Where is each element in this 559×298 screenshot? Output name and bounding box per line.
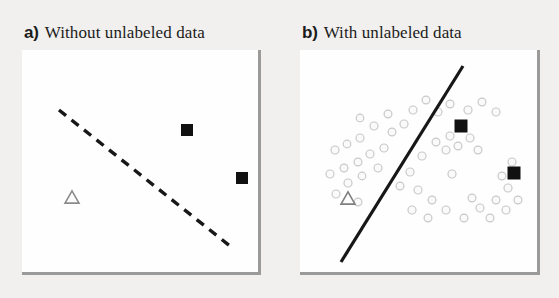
unlabeled-point-marker (414, 186, 422, 194)
labeled-square-marker (181, 124, 193, 136)
unlabeled-point-marker (358, 172, 366, 180)
unlabeled-point-marker (366, 150, 374, 158)
unlabeled-point-marker (384, 110, 392, 118)
unlabeled-point-marker (446, 100, 454, 108)
panel-b-letter: b) (302, 23, 318, 42)
unlabeled-point-marker (478, 98, 486, 106)
unlabeled-point-marker (408, 206, 416, 214)
unlabeled-point-marker (486, 214, 494, 222)
unlabeled-point-marker (466, 134, 474, 142)
figure-canvas: a)Without unlabeled data b)With unlabele… (0, 0, 559, 298)
unlabeled-point-marker (454, 142, 462, 150)
panel-b-plot-area (300, 50, 537, 272)
unlabeled-point-marker (514, 196, 522, 204)
labeled-square-marker (236, 172, 248, 184)
panel-b-label: b)With unlabeled data (302, 24, 462, 41)
unlabeled-point-marker (448, 170, 456, 178)
unlabeled-point-marker (343, 140, 351, 148)
panel-a-letter: a) (24, 23, 39, 42)
labeled-triangle-marker (341, 192, 355, 204)
unlabeled-point-marker (356, 134, 364, 142)
unlabeled-point-marker (370, 122, 378, 130)
unlabeled-point-marker (508, 158, 516, 166)
labeled-square-marker (455, 120, 468, 133)
unlabeled-point-marker (428, 196, 436, 204)
panel-a-scatter-svg (22, 50, 258, 272)
unlabeled-point-marker (474, 146, 482, 154)
unlabeled-point-marker (409, 106, 417, 114)
panel-b-scatter-svg (300, 50, 537, 272)
unlabeled-point-marker (468, 194, 476, 202)
unlabeled-point-marker (464, 106, 472, 114)
unlabeled-point-marker (354, 158, 362, 166)
unlabeled-point-marker (380, 144, 388, 152)
unlabeled-point-marker (326, 170, 334, 178)
unlabeled-point-marker (424, 214, 432, 222)
unlabeled-point-marker (432, 138, 440, 146)
unlabeled-point-marker (388, 128, 396, 136)
unlabeled-point-marker (504, 184, 512, 192)
panel-a-title: Without unlabeled data (45, 23, 205, 42)
unlabeled-point-marker (476, 204, 484, 212)
unlabeled-point-marker (344, 179, 352, 187)
unlabeled-point-marker (418, 152, 426, 160)
unlabeled-point-marker (396, 182, 404, 190)
unlabeled-point-marker (460, 214, 468, 222)
unlabeled-point-marker (340, 164, 348, 172)
unlabeled-point-marker (492, 108, 500, 116)
unlabeled-point-marker (400, 120, 408, 128)
unlabeled-point-marker (422, 96, 430, 104)
unlabeled-point-marker (331, 146, 339, 154)
unlabeled-point-marker (406, 168, 414, 176)
unlabeled-point-marker (446, 132, 454, 140)
panel-b-title: With unlabeled data (324, 23, 462, 42)
unlabeled-point-marker (492, 196, 500, 204)
unlabeled-point-marker (374, 164, 382, 172)
unlabeled-point-marker (356, 114, 364, 122)
unlabeled-point-marker (442, 146, 450, 154)
panel-a-plot-area (22, 50, 258, 272)
decision-boundary-dashed-line (59, 110, 230, 246)
unlabeled-point-marker (442, 206, 450, 214)
labeled-triangle-marker (65, 191, 79, 203)
panel-a-label: a)Without unlabeled data (24, 24, 205, 41)
unlabeled-point-marker (502, 206, 510, 214)
unlabeled-point-marker (332, 190, 340, 198)
labeled-square-marker (508, 167, 521, 180)
unlabeled-point-marker (498, 172, 506, 180)
